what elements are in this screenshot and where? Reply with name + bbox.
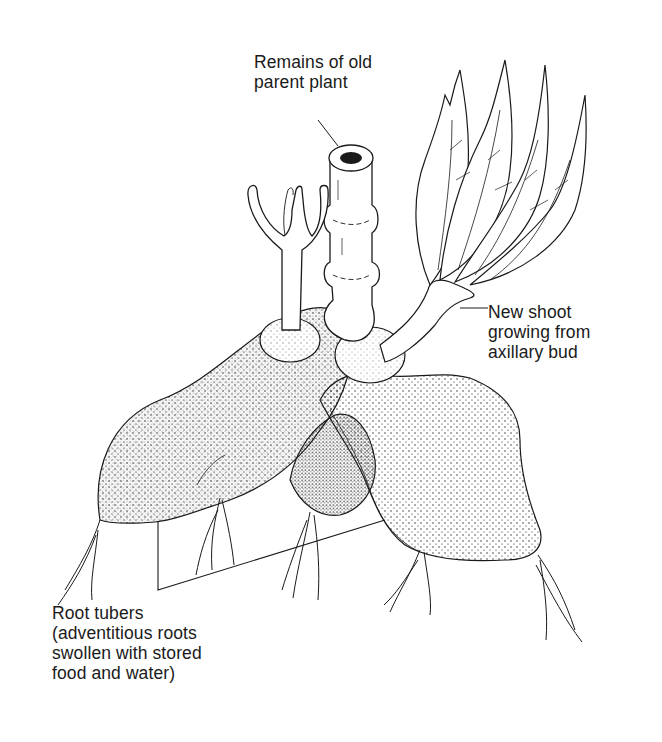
label-new-shoot-line3: axillary bud [488, 342, 590, 362]
label-new-shoot-line2: growing from [488, 322, 590, 342]
label-new-shoot: New shoot growing from axillary bud [488, 302, 590, 362]
label-root-tubers-line1: Root tubers [52, 603, 202, 623]
new-leaves [416, 60, 586, 285]
label-root-tubers-line3: swollen with stored [52, 643, 202, 663]
label-parent-plant: Remains of old parent plant [254, 52, 372, 92]
label-root-tubers: Root tubers (adventitious roots swollen … [52, 603, 202, 683]
label-new-shoot-line1: New shoot [488, 302, 590, 322]
label-root-tubers-line4: food and water) [52, 663, 202, 683]
label-parent-plant-line2: parent plant [254, 72, 372, 92]
parent-stem [318, 120, 380, 341]
new-shoot [380, 280, 488, 362]
root-tubers-leader-line [158, 520, 385, 590]
label-parent-plant-line1: Remains of old [254, 52, 372, 72]
label-root-tubers-line2: (adventitious roots [52, 623, 202, 643]
